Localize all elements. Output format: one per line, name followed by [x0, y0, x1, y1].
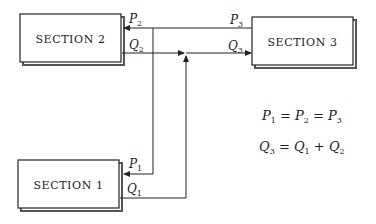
label-p1: P1 [128, 157, 142, 173]
label-p3: P3 [229, 13, 243, 29]
equation-pressure: P1 = P2 = P3 [261, 108, 342, 125]
label-q1: Q1 [127, 182, 142, 198]
section-2-box: SECTION 2 [20, 14, 124, 65]
section-1-box: SECTION 1 [18, 160, 122, 211]
junction-diagram: SECTION 2 SECTION 3 SECTION 1 P2 Q2 P3 Q… [0, 0, 376, 224]
svg-text:P2: P2 [128, 12, 142, 28]
svg-text:P1 = P2 = P3: P1 = P2 = P3 [261, 108, 342, 125]
svg-text:P1: P1 [128, 157, 142, 173]
svg-text:Q3: Q3 [228, 39, 243, 55]
svg-text:P3: P3 [229, 13, 243, 29]
label-p2: P2 [128, 12, 142, 28]
flow-line [120, 53, 251, 198]
section-3-box: SECTION 3 [252, 17, 356, 68]
svg-text:Q1: Q1 [127, 182, 142, 198]
section-2-label: SECTION 2 [35, 33, 105, 46]
section-3-label: SECTION 3 [267, 36, 337, 49]
svg-text:Q2: Q2 [129, 38, 144, 54]
label-q2: Q2 [129, 38, 144, 54]
svg-text:Q3 = Q1 + Q2: Q3 = Q1 + Q2 [259, 139, 345, 156]
label-q3: Q3 [228, 39, 243, 55]
equation-flow: Q3 = Q1 + Q2 [259, 139, 345, 156]
section-1-label: SECTION 1 [33, 179, 103, 192]
